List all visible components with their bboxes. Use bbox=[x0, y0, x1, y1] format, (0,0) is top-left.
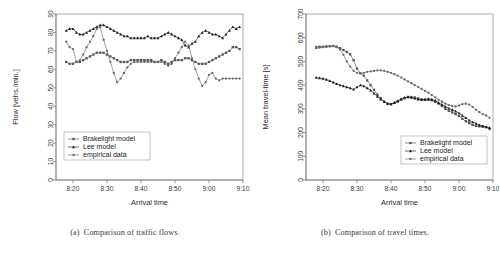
series-marker bbox=[85, 57, 87, 59]
series-marker bbox=[119, 77, 121, 79]
series-marker bbox=[215, 77, 217, 79]
series-marker bbox=[126, 61, 128, 63]
series-marker bbox=[191, 57, 193, 59]
series-marker bbox=[318, 47, 320, 49]
y-tick-label: 0 bbox=[47, 178, 54, 182]
series-marker bbox=[201, 31, 204, 34]
series-marker bbox=[221, 53, 223, 55]
series-marker bbox=[465, 102, 467, 104]
chart-b-svg: 01002003004005006007008:208:308:408:509:… bbox=[250, 0, 500, 215]
series-marker bbox=[119, 61, 121, 63]
legend: Brakelight modelLee modelempirical data bbox=[64, 132, 150, 160]
series-empirical-data bbox=[315, 45, 491, 119]
series-marker bbox=[116, 81, 118, 83]
series-marker bbox=[434, 96, 436, 98]
legend-marker bbox=[409, 158, 411, 160]
series-marker bbox=[346, 51, 348, 53]
series-marker bbox=[356, 67, 358, 69]
series-marker bbox=[339, 48, 341, 50]
series-marker bbox=[109, 55, 111, 57]
series-marker bbox=[68, 63, 70, 65]
series-marker bbox=[228, 50, 230, 52]
series-marker bbox=[109, 27, 112, 30]
series-marker bbox=[363, 72, 365, 74]
series-marker bbox=[478, 111, 480, 113]
series-marker bbox=[366, 71, 368, 73]
y-tick-label: 70 bbox=[47, 47, 54, 55]
x-tick-label: 9:10 bbox=[487, 185, 500, 192]
series-marker bbox=[72, 63, 74, 65]
series-line bbox=[66, 47, 239, 64]
series-empirical-data bbox=[65, 26, 241, 87]
series-marker bbox=[116, 59, 118, 61]
series-line bbox=[316, 78, 489, 128]
series-marker bbox=[471, 106, 473, 108]
series-marker bbox=[123, 61, 125, 63]
series-marker bbox=[65, 41, 67, 43]
series-marker bbox=[366, 79, 368, 81]
series-marker bbox=[369, 70, 371, 72]
series-marker bbox=[373, 70, 375, 72]
series-marker bbox=[218, 55, 220, 57]
series-marker bbox=[359, 72, 361, 74]
x-tick-label: 8:40 bbox=[135, 185, 148, 192]
legend-label: empirical data bbox=[83, 151, 127, 159]
series-marker bbox=[441, 101, 443, 103]
legend-marker bbox=[72, 154, 74, 156]
series-marker bbox=[82, 59, 84, 61]
series-marker bbox=[92, 35, 94, 37]
series-marker bbox=[482, 113, 484, 115]
series-lee-model bbox=[315, 76, 491, 129]
series-marker bbox=[349, 53, 351, 55]
series-marker bbox=[92, 27, 95, 30]
x-axis-title: Arrival time bbox=[381, 198, 418, 207]
series-marker bbox=[424, 90, 426, 92]
series-line bbox=[66, 27, 239, 86]
series-marker bbox=[96, 28, 98, 30]
caption-a: (a) Comparison of traffic flows. bbox=[0, 228, 250, 237]
figure-row: 01020304050607080908:208:308:408:509:009… bbox=[0, 0, 500, 254]
series-marker bbox=[113, 57, 115, 59]
series-marker bbox=[133, 61, 135, 63]
x-tick-label: 8:30 bbox=[101, 185, 114, 192]
series-marker bbox=[109, 61, 111, 63]
x-axis-title: Arrival time bbox=[131, 198, 168, 207]
series-marker bbox=[89, 29, 92, 32]
x-tick-label: 8:40 bbox=[385, 185, 398, 192]
series-marker bbox=[65, 29, 68, 32]
series-marker bbox=[208, 31, 211, 34]
series-marker bbox=[410, 82, 412, 84]
series-marker bbox=[143, 61, 145, 63]
caption-a-id: (a) bbox=[70, 228, 79, 237]
series-marker bbox=[181, 46, 183, 48]
series-marker bbox=[232, 77, 234, 79]
x-tick-label: 8:50 bbox=[419, 185, 432, 192]
series-marker bbox=[238, 25, 241, 28]
series-marker bbox=[349, 65, 351, 67]
series-marker bbox=[85, 46, 87, 48]
series-marker bbox=[208, 61, 210, 63]
series-marker bbox=[383, 70, 385, 72]
series-marker bbox=[471, 121, 474, 124]
series-marker bbox=[79, 59, 81, 61]
y-tick-label: 100 bbox=[297, 150, 304, 161]
legend-marker bbox=[409, 142, 411, 144]
series-marker bbox=[136, 61, 138, 63]
panel-b: 01002003004005006007008:208:308:408:509:… bbox=[250, 0, 500, 254]
series-marker bbox=[140, 61, 142, 63]
series-marker bbox=[232, 46, 234, 48]
series-marker bbox=[363, 75, 365, 77]
y-axis-title: Mean travel-time [s] bbox=[261, 65, 270, 130]
series-marker bbox=[157, 61, 159, 63]
series-marker bbox=[461, 103, 463, 105]
series-brakelight-model bbox=[315, 45, 491, 130]
series-marker bbox=[89, 55, 91, 57]
series-marker bbox=[180, 38, 183, 41]
series-marker bbox=[431, 94, 433, 96]
series-marker bbox=[177, 36, 180, 39]
series-marker bbox=[174, 35, 177, 38]
series-marker bbox=[359, 84, 362, 87]
series-marker bbox=[160, 35, 163, 38]
series-marker bbox=[177, 52, 179, 54]
series-marker bbox=[184, 57, 186, 59]
